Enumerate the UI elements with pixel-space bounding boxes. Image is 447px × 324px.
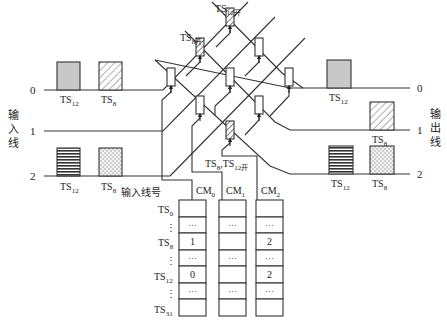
input2-ts8-slot	[99, 148, 122, 176]
output-side: TS12 0 TS8 1 输 出 线 TS12 TS8 2	[303, 60, 441, 192]
input2-ts12-label: TS12	[60, 181, 79, 195]
svg-text:···: ···	[265, 220, 274, 230]
cm-row-labels: TS0 ⋮ TS8 ⋮ TS12 ⋮ TS31	[154, 204, 176, 318]
output-lines-label-char3: 线	[430, 135, 441, 149]
svg-text:···: ···	[228, 220, 237, 230]
input-line-0-label: 0	[30, 84, 36, 96]
crosspoint-gate	[285, 68, 293, 93]
control-line-right	[270, 84, 289, 116]
svg-text:···: ···	[188, 286, 197, 296]
input-line-number-header: 输入线号	[121, 186, 161, 198]
space-switch-diagram: 0 TS12 TS8 输 入 线 1 2 TS12 TS8	[0, 0, 447, 324]
output2-ts12-label: TS12	[331, 178, 350, 192]
control-line-top-left	[186, 54, 200, 76]
input-side: 0 TS12 TS8 输 入 线 1 2 TS12 TS8	[8, 62, 170, 195]
switch-matrix: TS12开 TS8开 TS8,TS12开	[155, 2, 305, 200]
svg-text:···: ···	[265, 253, 274, 263]
crosspoint-gate	[196, 96, 204, 121]
svg-text:···: ···	[265, 286, 274, 296]
input0-ts8-slot	[99, 62, 122, 90]
output2-ts12-slot	[329, 146, 353, 174]
ts8-ts12-open-label: TS8,TS12开	[205, 158, 248, 172]
cm2-header: CM2	[261, 185, 281, 199]
output0-ts12-slot	[327, 60, 351, 88]
crosspoint-gate	[226, 68, 234, 93]
input-lines-label-char2: 入	[8, 123, 19, 136]
svg-text:TS12: TS12	[154, 271, 173, 285]
crosspoint-gate	[167, 68, 175, 93]
cm0-header: CM0	[196, 185, 216, 199]
output2-ts8-label: TS8	[372, 178, 388, 192]
control-line-top-right	[245, 54, 259, 76]
svg-text:TS0: TS0	[158, 204, 174, 218]
input2-ts12-slot	[57, 148, 80, 176]
cm0-table: ··· 1 ··· 0 ···	[179, 200, 206, 316]
control-memory: 输入线号 CM0 CM1 CM2 TS0 ⋮ TS8 ⋮ TS12 ⋮ TS31…	[121, 185, 283, 318]
output0-ts12-label: TS12	[329, 92, 348, 106]
input0-ts12-label: TS12	[60, 94, 79, 108]
svg-text:···: ···	[228, 286, 237, 296]
input-lines-label-char3: 线	[8, 136, 19, 150]
output2-ts8-slot	[370, 146, 394, 174]
crosspoint-gate	[255, 96, 263, 121]
cm1-table: ··· ··· ···	[219, 200, 246, 316]
control-line-mid2	[245, 112, 259, 135]
svg-text:···: ···	[188, 220, 197, 230]
crosspoint-gate	[255, 38, 263, 63]
crosspoint-gate-ts8-ts12-open	[226, 121, 234, 146]
input0-ts12-slot	[57, 62, 80, 90]
input-lines-label-char1: 输	[8, 108, 19, 122]
svg-text:⋮: ⋮	[166, 222, 176, 233]
svg-text:TS8: TS8	[158, 237, 174, 251]
input0-ts8-label: TS8	[101, 94, 117, 108]
svg-text:···: ···	[188, 253, 197, 263]
input-line-2-label: 2	[30, 170, 36, 182]
output-line-1-label: 1	[417, 124, 423, 136]
output-line-0-label: 0	[417, 82, 423, 94]
input2-ts8-label: TS8	[101, 181, 117, 195]
ts8-open-label: TS8开	[180, 32, 202, 46]
svg-text:···: ···	[228, 253, 237, 263]
control-line-cm0	[162, 84, 192, 200]
cm2-table: ··· 2 ··· 2 ···	[256, 200, 283, 316]
svg-text:0: 0	[190, 269, 195, 280]
output-lines-label-char2: 出	[430, 121, 441, 135]
svg-text:⋮: ⋮	[166, 255, 176, 266]
svg-text:⋮: ⋮	[166, 288, 176, 299]
input-2-diagonal	[170, 38, 305, 176]
output-line-2-label: 2	[417, 168, 423, 180]
ts12-open-label: TS12开	[215, 3, 241, 17]
input-line-1-label: 1	[30, 125, 36, 137]
svg-text:2: 2	[267, 236, 272, 247]
svg-text:1: 1	[190, 236, 195, 247]
svg-text:2: 2	[267, 269, 272, 280]
output1-ts8-slot	[370, 102, 394, 130]
control-line-mid	[215, 84, 230, 115]
output-lines-label-char1: 输	[430, 107, 441, 121]
svg-text:TS31: TS31	[154, 304, 173, 318]
cm1-header: CM1	[226, 185, 246, 199]
